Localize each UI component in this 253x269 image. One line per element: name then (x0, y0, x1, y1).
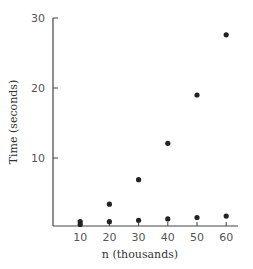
data-point-lower (136, 218, 141, 223)
y-axis-label: Time (seconds) (7, 80, 20, 165)
x-tick-label: 40 (161, 231, 175, 244)
data-point-lower (107, 219, 112, 224)
data-point-lower (78, 222, 83, 227)
data-point-lower (194, 215, 199, 220)
x-axis-label: n (thousands) (102, 248, 178, 261)
data-points (78, 32, 229, 227)
x-tick-label: 60 (219, 231, 233, 244)
x-tick-label: 10 (73, 231, 87, 244)
axes: 102030102030405060 (31, 12, 238, 244)
data-point-upper (224, 32, 229, 37)
y-tick-label: 10 (31, 152, 45, 165)
x-tick-label: 50 (190, 231, 204, 244)
data-point-lower (224, 214, 229, 219)
data-point-upper (194, 92, 199, 97)
y-tick-label: 20 (31, 82, 45, 95)
x-tick-label: 30 (132, 231, 146, 244)
data-point-upper (107, 202, 112, 207)
data-point-lower (165, 216, 170, 221)
scatter-chart: 102030102030405060 n (thousands) Time (s… (0, 0, 253, 269)
data-point-upper (136, 177, 141, 182)
x-tick-label: 20 (102, 231, 116, 244)
data-point-upper (165, 141, 170, 146)
y-tick-label: 30 (31, 12, 45, 25)
